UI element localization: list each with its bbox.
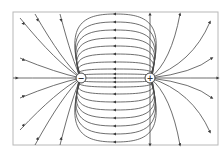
diagram-frame bbox=[13, 12, 218, 145]
negative-charge: − bbox=[76, 73, 86, 83]
positive-charge-label: + bbox=[147, 74, 154, 83]
positive-charge: + bbox=[145, 73, 155, 83]
negative-charge-label: − bbox=[78, 74, 85, 83]
field-lines-canvas: − + bbox=[0, 0, 223, 148]
dipole-field-diagram: − + bbox=[0, 0, 223, 148]
